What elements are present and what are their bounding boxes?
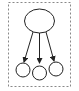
root-node[interactable]: [25, 9, 55, 33]
edge-root-child-1: [24, 32, 33, 62]
diagram-canvas: [0, 0, 79, 91]
child-node-3[interactable]: [49, 62, 63, 76]
edge-root-child-3: [46, 32, 54, 61]
child-node-2[interactable]: [33, 66, 47, 80]
child-node-1[interactable]: [16, 63, 30, 77]
